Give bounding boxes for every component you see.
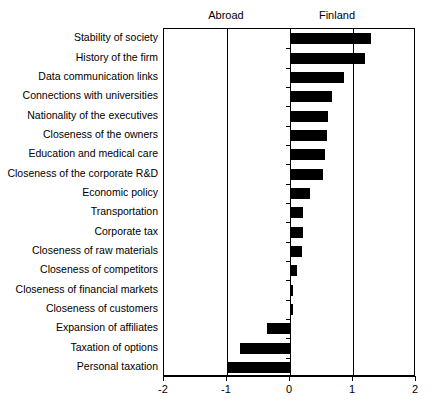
category-label: Connections with universities bbox=[0, 90, 158, 101]
zero-axis-tick bbox=[286, 280, 290, 281]
zero-axis-tick bbox=[286, 203, 290, 204]
gridline-1 bbox=[353, 29, 354, 375]
category-label: Corporate tax bbox=[0, 226, 158, 237]
gridline-neg1 bbox=[227, 29, 228, 375]
x-axis-tick-label: -1 bbox=[211, 383, 241, 396]
x-axis-tick bbox=[163, 376, 164, 381]
bar bbox=[290, 188, 310, 199]
zero-axis-tick bbox=[286, 87, 290, 88]
axis-side-label-abroad: Abroad bbox=[202, 9, 250, 22]
plot-area bbox=[163, 28, 415, 376]
category-label: Closeness of the owners bbox=[0, 129, 158, 140]
category-label: Closeness of competitors bbox=[0, 264, 158, 275]
x-axis-tick bbox=[226, 376, 227, 381]
category-label: Closeness of raw materials bbox=[0, 245, 158, 256]
bar bbox=[267, 323, 290, 334]
category-label: History of the firm bbox=[0, 52, 158, 63]
x-axis-tick bbox=[352, 376, 353, 381]
zero-axis-tick bbox=[286, 184, 290, 185]
bar bbox=[290, 149, 325, 160]
zero-axis-tick bbox=[286, 222, 290, 223]
bar bbox=[290, 265, 297, 276]
bar bbox=[290, 246, 302, 257]
category-label: Data communication links bbox=[0, 71, 158, 82]
zero-axis-tick bbox=[286, 145, 290, 146]
zero-axis-tick bbox=[286, 68, 290, 69]
zero-axis-tick bbox=[286, 358, 290, 359]
category-label: Taxation of options bbox=[0, 342, 158, 353]
bar bbox=[290, 207, 303, 218]
x-axis-tick-label: -2 bbox=[148, 383, 178, 396]
bar bbox=[290, 169, 323, 180]
zero-axis-tick bbox=[286, 338, 290, 339]
category-label: Economic policy bbox=[0, 187, 158, 198]
category-label-column: Stability of societyHistory of the firmD… bbox=[0, 28, 158, 376]
bar bbox=[290, 91, 332, 102]
bar bbox=[290, 111, 328, 122]
category-label: Closeness of financial markets bbox=[0, 284, 158, 295]
bar bbox=[290, 227, 303, 238]
zero-axis-tick bbox=[286, 261, 290, 262]
zero-axis-tick bbox=[286, 300, 290, 301]
zero-axis-tick bbox=[286, 126, 290, 127]
category-label: Education and medical care bbox=[0, 148, 158, 159]
x-axis-tick-label: 1 bbox=[337, 383, 367, 396]
x-axis: -2-1012 bbox=[163, 376, 415, 406]
category-label: Stability of society bbox=[0, 32, 158, 43]
category-label: Personal taxation bbox=[0, 361, 158, 372]
gridline-0 bbox=[290, 29, 291, 375]
zero-axis-tick bbox=[286, 48, 290, 49]
bar bbox=[290, 33, 371, 44]
axis-side-label-finland: Finland bbox=[313, 9, 361, 22]
category-label: Expansion of affiliates bbox=[0, 322, 158, 333]
bar bbox=[290, 130, 327, 141]
category-label: Closeness of the corporate R&D bbox=[0, 168, 158, 179]
zero-axis-tick bbox=[286, 319, 290, 320]
x-axis-tick-label: 2 bbox=[400, 383, 430, 396]
bar bbox=[290, 72, 344, 83]
x-axis-tick bbox=[415, 376, 416, 381]
bar-chart: Abroad Finland Stability of societyHisto… bbox=[0, 0, 431, 412]
x-axis-tick-label: 0 bbox=[274, 383, 304, 396]
zero-axis-tick bbox=[286, 106, 290, 107]
category-label: Closeness of customers bbox=[0, 303, 158, 314]
x-axis-tick bbox=[289, 376, 290, 381]
bar bbox=[290, 53, 365, 64]
bar bbox=[227, 362, 290, 373]
zero-axis-tick bbox=[286, 242, 290, 243]
zero-axis-tick bbox=[286, 164, 290, 165]
bar bbox=[240, 343, 290, 354]
category-label: Transportation bbox=[0, 206, 158, 217]
category-label: Nationality of the executives bbox=[0, 110, 158, 121]
